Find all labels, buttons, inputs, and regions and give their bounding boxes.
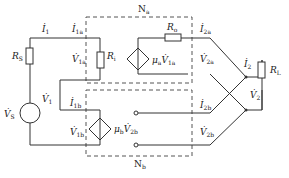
resistor-ri	[97, 52, 104, 68]
wire-top-left	[30, 38, 100, 110]
label-ro: Ro	[166, 22, 178, 33]
voltage-source-vs	[20, 103, 40, 123]
label-v2b: V̇2b	[200, 126, 214, 138]
label-v2a: V̇2a	[200, 53, 214, 65]
label-vs: V̇S	[4, 108, 15, 120]
label-dep-b: μbV̇2b	[114, 123, 138, 135]
resistor-ro	[165, 34, 181, 41]
label-i1a: İ1a	[71, 23, 83, 35]
terminal-b-top	[134, 111, 138, 115]
label-nb: Nb	[134, 159, 146, 170]
label-i2: İ2	[243, 58, 252, 70]
label-v1a: V̇1a	[72, 53, 86, 65]
label-ri: Ri	[106, 51, 116, 62]
resistor-rl	[258, 62, 265, 78]
label-na: Na	[138, 4, 150, 15]
circuit-diagram: Na Nb RS Ri Ro RL V̇S μaV̇1a μbV̇2b İ1 İ…	[0, 0, 289, 178]
label-v1b: V̇1b	[70, 126, 84, 138]
label-i1b: İ1b	[69, 97, 81, 109]
resistor-rs	[26, 48, 33, 64]
label-i2a: İ2a	[199, 23, 211, 35]
label-dep-a: μaV̇1a	[152, 54, 176, 66]
terminal-b-bottom	[134, 143, 138, 147]
label-rl: RL	[269, 65, 281, 76]
label-rs: RS	[11, 51, 23, 62]
label-v1: V̇1	[42, 93, 52, 105]
label-i2b: İ2b	[199, 99, 211, 111]
wire-to-nb	[60, 110, 100, 118]
label-i1: İ1	[41, 23, 49, 35]
label-v2: V̇2	[250, 89, 261, 101]
